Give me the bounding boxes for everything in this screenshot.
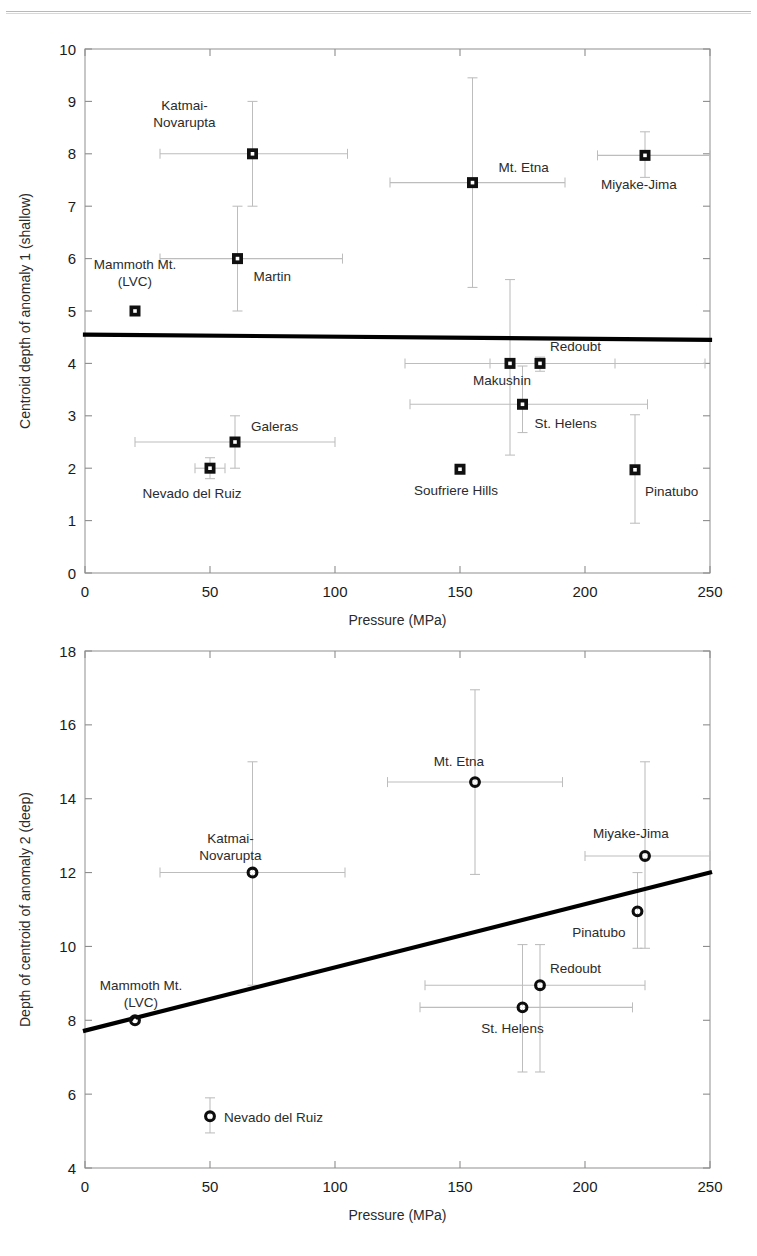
square-marker-center	[236, 257, 240, 261]
data-point[interactable]: Galeras	[230, 419, 299, 448]
data-point[interactable]: Mt. Etna	[467, 160, 549, 189]
point-label: Martin	[254, 269, 292, 284]
y-tick-label: 18	[59, 643, 76, 660]
circle-marker-center	[251, 871, 254, 874]
data-point[interactable]: St. Helens	[517, 399, 597, 432]
x-axis-title: Pressure (MPa)	[348, 1207, 446, 1223]
x-axis-title: Pressure (MPa)	[348, 612, 446, 628]
y-tick-label: 8	[68, 1012, 76, 1029]
point-label: Mt. Etna	[499, 160, 550, 175]
square-marker-center	[538, 362, 542, 366]
y-tick-label: 10	[59, 41, 76, 58]
x-tick-label: 250	[697, 583, 722, 600]
y-tick-label: 3	[68, 407, 76, 424]
square-marker-center	[508, 362, 512, 366]
data-point[interactable]: Mammoth Mt.(LVC)	[94, 257, 177, 317]
x-tick-label: 200	[572, 583, 597, 600]
plot-anomaly-1-shallow: 050100150200250012345678910Katmai-Novaru…	[0, 18, 757, 630]
y-tick-label: 4	[68, 1160, 76, 1177]
point-label: Mammoth Mt.(LVC)	[100, 978, 183, 1010]
x-tick-label: 50	[202, 1178, 219, 1195]
point-label: Mt. Etna	[434, 754, 485, 769]
plot-frame	[85, 651, 710, 1168]
point-label: Redoubt	[550, 339, 601, 354]
point-label: Miyake-Jima	[593, 826, 669, 841]
y-tick-label: 6	[68, 250, 76, 267]
circle-marker-center	[538, 984, 541, 987]
data-point[interactable]: Martin	[232, 253, 291, 284]
x-tick-label: 150	[447, 583, 472, 600]
data-point[interactable]: Soufriere Hills	[414, 464, 498, 499]
square-marker-center	[643, 154, 647, 158]
y-axis-title: Depth of centroid of anomaly 2 (deep)	[17, 792, 33, 1027]
data-point[interactable]: St. Helens	[481, 1003, 544, 1036]
circle-marker-center	[636, 910, 639, 913]
figure-anomaly-2-deep: 0501001502002504681012141618Mt. EtnaMiya…	[0, 630, 757, 1256]
y-tick-label: 4	[68, 355, 76, 372]
point-label: Pinatubo	[572, 925, 625, 940]
page-header-rule	[6, 11, 751, 12]
x-tick-label: 250	[697, 1178, 722, 1195]
page-header-rule-secondary	[6, 13, 751, 14]
circle-marker-center	[521, 1006, 524, 1009]
y-tick-label: 8	[68, 145, 76, 162]
point-label: Makushin	[473, 373, 531, 388]
x-tick-label: 50	[202, 583, 219, 600]
square-marker-center	[458, 467, 462, 471]
x-tick-label: 100	[322, 1178, 347, 1195]
x-tick-label: 0	[81, 1178, 89, 1195]
circle-marker-center	[473, 780, 476, 783]
point-label: Miyake-Jima	[601, 177, 677, 192]
y-tick-label: 12	[59, 864, 76, 881]
point-label: Nevado del Ruiz	[142, 486, 241, 501]
point-label: Redoubt	[550, 961, 601, 976]
square-marker-center	[471, 181, 475, 185]
point-label: Katmai-Novarupta	[153, 98, 216, 130]
data-point[interactable]: Miyake-Jima	[601, 150, 677, 193]
data-point[interactable]: Pinatubo	[630, 464, 699, 499]
x-tick-label: 150	[447, 1178, 472, 1195]
y-tick-label: 16	[59, 716, 76, 733]
circle-marker-center	[643, 854, 646, 857]
data-point[interactable]: Redoubt	[535, 339, 602, 369]
square-marker-center	[251, 152, 255, 156]
point-label: St. Helens	[535, 416, 598, 431]
data-point[interactable]: Pinatubo	[572, 907, 642, 940]
data-point[interactable]: Makushin	[473, 358, 531, 389]
data-point[interactable]: Katmai-Novarupta	[153, 98, 258, 160]
square-marker-center	[208, 466, 212, 470]
point-label: St. Helens	[481, 1021, 544, 1036]
square-marker-center	[133, 309, 137, 313]
y-tick-label: 6	[68, 1086, 76, 1103]
y-tick-label: 0	[68, 565, 76, 582]
point-label: Galeras	[251, 419, 299, 434]
point-label: Soufriere Hills	[414, 483, 498, 498]
square-marker-center	[633, 468, 637, 472]
x-tick-label: 100	[322, 583, 347, 600]
figure-anomaly-1-shallow: 050100150200250012345678910Katmai-Novaru…	[0, 18, 757, 630]
x-tick-label: 0	[81, 583, 89, 600]
point-label: Nevado del Ruiz	[224, 1110, 323, 1125]
point-label: Mammoth Mt.(LVC)	[94, 257, 177, 289]
fit-line	[85, 335, 710, 340]
y-tick-label: 5	[68, 303, 76, 320]
data-point[interactable]: Nevado del Ruiz	[206, 1110, 324, 1125]
plot-anomaly-2-deep: 0501001502002504681012141618Mt. EtnaMiya…	[0, 630, 757, 1256]
y-tick-label: 1	[68, 512, 76, 529]
y-tick-label: 7	[68, 198, 76, 215]
circle-marker-center	[208, 1115, 211, 1118]
square-marker-center	[521, 402, 525, 406]
y-axis-title: Centroid depth of anomaly 1 (shallow)	[17, 193, 33, 429]
y-tick-label: 14	[59, 790, 76, 807]
point-label: Pinatubo	[645, 484, 698, 499]
y-tick-label: 9	[68, 93, 76, 110]
y-tick-label: 10	[59, 938, 76, 955]
circle-marker-center	[133, 1019, 136, 1022]
x-tick-label: 200	[572, 1178, 597, 1195]
y-tick-label: 2	[68, 460, 76, 477]
data-point[interactable]: Nevado del Ruiz	[142, 463, 241, 502]
data-point[interactable]: Miyake-Jima	[593, 826, 669, 860]
square-marker-center	[233, 440, 237, 444]
